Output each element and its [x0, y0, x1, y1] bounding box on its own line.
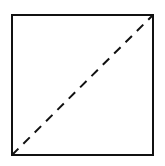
dashed-diagonal-line — [12, 15, 153, 155]
diagram-canvas — [0, 0, 165, 166]
diagram-svg — [0, 0, 165, 166]
